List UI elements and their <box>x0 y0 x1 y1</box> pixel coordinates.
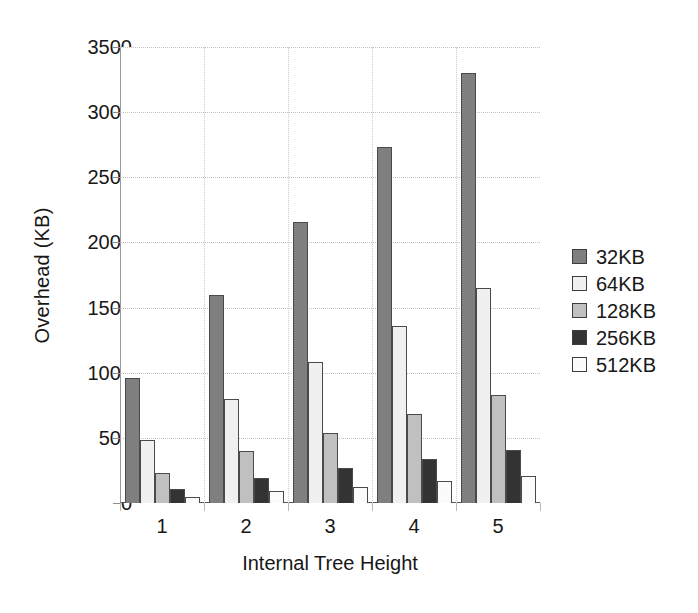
legend-swatch-icon <box>572 276 587 291</box>
x-tick-mark <box>540 503 541 511</box>
y-tick-mark <box>113 308 120 309</box>
bar-64kb-1 <box>140 440 155 503</box>
x-tick-mark <box>204 503 205 511</box>
x-tick-mark <box>372 503 373 511</box>
bar-64kb-4 <box>392 326 407 503</box>
bar-32kb-3 <box>293 222 308 503</box>
bar-512kb-3 <box>353 487 368 503</box>
bar-256kb-2 <box>254 478 269 503</box>
bar-32kb-5 <box>461 73 476 503</box>
x-tick-label: 5 <box>468 515 528 538</box>
bar-series-container <box>120 47 540 503</box>
bar-512kb-5 <box>521 476 536 503</box>
x-tick-mark <box>288 503 289 511</box>
bar-32kb-1 <box>125 378 140 503</box>
x-tick-mark <box>120 503 121 511</box>
y-tick-mark <box>113 112 120 113</box>
bar-256kb-4 <box>422 459 437 503</box>
legend-item-32kb[interactable]: 32KB <box>572 243 656 270</box>
bar-128kb-4 <box>407 414 422 503</box>
bar-64kb-3 <box>308 362 323 503</box>
bar-128kb-3 <box>323 433 338 503</box>
bar-group <box>120 47 204 503</box>
legend-swatch-icon <box>572 357 587 372</box>
legend-item-512kb[interactable]: 512KB <box>572 351 656 378</box>
bar-128kb-2 <box>239 451 254 503</box>
y-tick-mark <box>113 503 120 504</box>
bar-32kb-4 <box>377 147 392 503</box>
bar-512kb-1 <box>185 497 200 503</box>
y-tick-mark <box>113 242 120 243</box>
x-tick-label: 4 <box>384 515 444 538</box>
plot-area <box>120 47 540 503</box>
bar-512kb-4 <box>437 481 452 503</box>
x-axis-title: Internal Tree Height <box>120 552 540 575</box>
y-axis-title: Overhead (KB) <box>31 156 54 396</box>
x-tick-label: 1 <box>132 515 192 538</box>
bar-group <box>204 47 288 503</box>
legend-item-256kb[interactable]: 256KB <box>572 324 656 351</box>
bar-group <box>372 47 456 503</box>
bar-256kb-3 <box>338 468 353 503</box>
x-tick-label: 2 <box>216 515 276 538</box>
legend-swatch-icon <box>572 303 587 318</box>
legend-label: 128KB <box>596 301 656 321</box>
y-tick-mark <box>113 438 120 439</box>
bar-32kb-2 <box>209 295 224 503</box>
bar-128kb-1 <box>155 473 170 503</box>
bar-group <box>288 47 372 503</box>
bar-64kb-2 <box>224 399 239 503</box>
legend-label: 32KB <box>596 247 645 267</box>
legend-swatch-icon <box>572 249 587 264</box>
legend-label: 256KB <box>596 328 656 348</box>
y-tick-mark <box>113 47 120 48</box>
legend-label: 64KB <box>596 274 645 294</box>
bar-256kb-5 <box>506 450 521 503</box>
legend-item-64kb[interactable]: 64KB <box>572 270 656 297</box>
chart-legend: 32KB64KB128KB256KB512KB <box>572 243 656 378</box>
bar-chart-figure: Overhead (KB) 05001000150020002500300035… <box>0 0 698 613</box>
x-tick-label: 3 <box>300 515 360 538</box>
bar-group <box>456 47 540 503</box>
y-tick-mark <box>113 177 120 178</box>
legend-label: 512KB <box>596 355 656 375</box>
bar-64kb-5 <box>476 288 491 503</box>
bar-128kb-5 <box>491 395 506 503</box>
legend-swatch-icon <box>572 330 587 345</box>
legend-item-128kb[interactable]: 128KB <box>572 297 656 324</box>
bar-512kb-2 <box>269 491 284 503</box>
y-tick-mark <box>113 373 120 374</box>
bar-256kb-1 <box>170 489 185 503</box>
x-tick-mark <box>456 503 457 511</box>
